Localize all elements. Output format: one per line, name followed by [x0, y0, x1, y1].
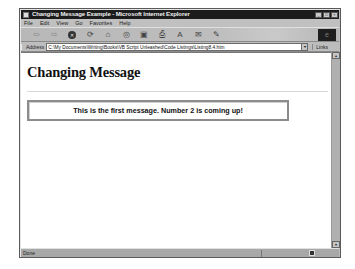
favorites-icon: ▣ — [140, 30, 148, 39]
title-bar[interactable]: Changing Message Example - Microsoft Int… — [21, 10, 339, 19]
menu-file[interactable]: File — [24, 20, 33, 26]
mail-button[interactable]: ✉ — [193, 30, 203, 40]
security-zone-icon — [309, 250, 315, 256]
back-button[interactable]: ⇦ — [31, 30, 41, 40]
print-icon: ⎙ — [159, 30, 165, 40]
close-button[interactable]: × — [331, 12, 338, 18]
stop-button[interactable]: ✕ — [67, 30, 77, 40]
status-text: Done — [21, 250, 261, 256]
menu-favorites[interactable]: Favorites — [90, 20, 113, 26]
menu-edit[interactable]: Edit — [40, 20, 49, 26]
menu-bar: File Edit View Go Favorites Help — [21, 19, 339, 27]
page-content: Changing Message This is the first messa… — [21, 52, 331, 248]
toolbar: ⇦ ⇨ ✕ ⟳ ⌂ ◎ ▣ ⎙ A ✉ ✎ e — [21, 27, 339, 42]
links-button[interactable]: Links — [312, 44, 328, 50]
horizontal-rule — [27, 91, 328, 92]
edit-button[interactable]: ✎ — [211, 30, 221, 40]
minimize-button[interactable]: _ — [315, 12, 322, 18]
refresh-button[interactable]: ⟳ — [85, 30, 95, 40]
search-button[interactable]: ◎ — [121, 30, 131, 40]
scroll-up-arrow-icon[interactable]: ▴ — [332, 52, 340, 59]
back-arrow-icon: ⇦ — [33, 30, 40, 39]
menu-go[interactable]: Go — [75, 20, 82, 26]
address-bar: Address C:\My Documents\Writing\Books\VB… — [21, 42, 339, 52]
font-icon: A — [177, 30, 182, 39]
window-title: Changing Message Example - Microsoft Int… — [32, 10, 315, 19]
menu-view[interactable]: View — [56, 20, 68, 26]
forward-button[interactable]: ⇨ — [49, 30, 59, 40]
edit-icon: ✎ — [213, 30, 220, 39]
vertical-scrollbar[interactable]: ▴ ▾ — [331, 52, 340, 248]
scroll-down-arrow-icon[interactable]: ▾ — [332, 241, 340, 248]
menu-help[interactable]: Help — [119, 20, 130, 26]
stop-icon: ✕ — [68, 31, 76, 39]
browser-window: Changing Message Example - Microsoft Int… — [19, 8, 341, 258]
mail-icon: ✉ — [195, 30, 202, 39]
message-text: This is the first message. Number 2 is c… — [73, 106, 243, 115]
page-heading: Changing Message — [27, 64, 140, 81]
search-icon: ◎ — [123, 30, 130, 39]
favorites-button[interactable]: ▣ — [139, 30, 149, 40]
home-icon: ⌂ — [106, 30, 111, 39]
ie-app-icon[interactable] — [23, 12, 29, 18]
forward-arrow-icon: ⇨ — [51, 30, 58, 39]
status-progress-cell — [261, 250, 307, 257]
maximize-button[interactable]: □ — [323, 12, 330, 18]
home-button[interactable]: ⌂ — [103, 30, 113, 40]
address-dropdown-button[interactable]: ▾ — [301, 43, 308, 51]
address-input[interactable]: C:\My Documents\Writing\Books\VB Script … — [46, 43, 302, 51]
message-box: This is the first message. Number 2 is c… — [27, 100, 289, 121]
print-button[interactable]: ⎙ — [157, 30, 167, 40]
status-bar: Done — [21, 248, 339, 257]
ie-throbber-logo: e — [318, 29, 336, 41]
font-button[interactable]: A — [175, 30, 185, 40]
address-label: Address — [21, 44, 46, 50]
refresh-icon: ⟳ — [87, 30, 94, 39]
